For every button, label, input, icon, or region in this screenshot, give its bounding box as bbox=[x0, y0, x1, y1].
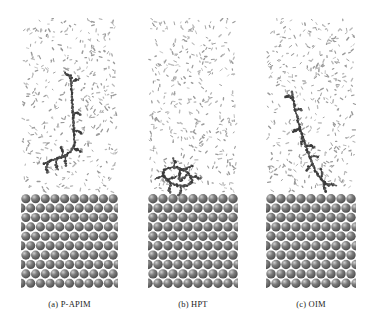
simulation-box bbox=[266, 18, 356, 288]
panel-caption-hpt: (b) HPT bbox=[148, 299, 238, 309]
panel-caption-p-apim: (a) P-APIM bbox=[21, 299, 118, 309]
panel-caption-oim: (c) OIM bbox=[266, 299, 356, 309]
simulation-box bbox=[21, 18, 118, 288]
figure-container: (a) P-APIM(b) HPT(c) OIM bbox=[0, 0, 374, 329]
metal-substrate bbox=[21, 194, 118, 288]
metal-substrate bbox=[266, 194, 356, 288]
inhibitor-molecule bbox=[284, 90, 337, 193]
solvent-particles bbox=[22, 19, 117, 193]
metal-substrate bbox=[148, 194, 238, 288]
simulation-box bbox=[148, 18, 238, 288]
